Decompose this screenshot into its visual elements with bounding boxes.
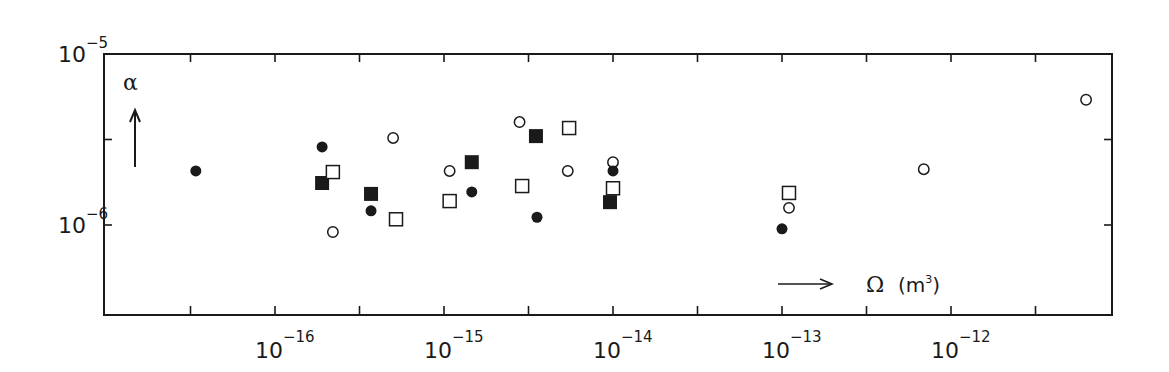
data-point-open-circle: [1081, 95, 1091, 105]
x-tick-label: 10−14: [593, 328, 653, 363]
x-tick-label: 10−15: [424, 328, 484, 363]
data-point-open-circle: [784, 203, 794, 213]
data-point-open-circle: [444, 166, 454, 176]
data-point-open-circle: [563, 166, 573, 176]
y-tick-label: 10−5: [58, 34, 108, 67]
scatter-chart: 10−1610−1510−1410−1310−12 10−510−6 α Ω (…: [0, 0, 1169, 372]
x-tick-label: 10−16: [255, 328, 315, 363]
data-point-filled-circle: [531, 212, 542, 223]
y-axis-symbol: α: [123, 70, 138, 95]
data-point-filled-circle: [466, 186, 477, 197]
data-point-filled-square: [364, 187, 378, 201]
data-point-open-square: [390, 213, 403, 226]
data-point-open-square: [607, 182, 620, 195]
data-point-filled-circle: [366, 205, 377, 216]
data-point-open-square: [516, 180, 529, 193]
data-point-open-circle: [328, 227, 338, 237]
y-tick-label: 10−6: [58, 205, 108, 238]
data-point-filled-square: [529, 129, 543, 143]
data-point-filled-circle: [190, 165, 201, 176]
data-point-filled-square: [465, 155, 479, 169]
data-point-open-circle: [919, 164, 929, 174]
data-point-filled-circle: [777, 223, 788, 234]
x-axis-symbol: Ω: [866, 272, 884, 297]
data-points: [190, 95, 1091, 238]
x-axis-annotation: Ω (m3): [778, 272, 940, 297]
x-axis-unit: (m3): [898, 273, 940, 297]
data-point-open-square: [782, 186, 795, 199]
x-tick-label: 10−13: [762, 328, 822, 363]
y-axis-annotation: α: [123, 70, 140, 167]
x-tick-label: 10−12: [931, 328, 991, 363]
data-point-filled-square: [603, 195, 617, 209]
data-point-open-circle: [514, 117, 524, 127]
data-point-open-square: [443, 195, 456, 208]
x-axis-tick-labels: 10−1610−1510−1410−1310−12: [255, 328, 991, 363]
data-point-open-square: [326, 166, 339, 179]
data-point-open-square: [563, 122, 576, 135]
data-point-open-circle: [388, 133, 398, 143]
data-point-filled-circle: [317, 141, 328, 152]
y-axis-tick-labels: 10−510−6: [58, 34, 108, 238]
